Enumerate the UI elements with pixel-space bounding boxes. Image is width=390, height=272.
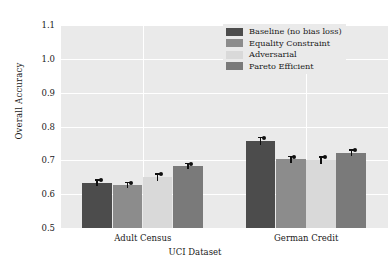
bar (173, 166, 203, 228)
bar (246, 141, 276, 228)
bar (143, 177, 173, 228)
y-axis-tick: 1.1 (25, 21, 55, 30)
error-bar-marker (99, 178, 103, 182)
legend-swatch-icon (226, 39, 243, 47)
legend-item[interactable]: Equality Constraint (226, 39, 342, 48)
y-axis-label: Overall Accuracy (14, 26, 24, 176)
error-bar-marker (129, 181, 133, 185)
legend-swatch-icon (226, 51, 243, 59)
error-bar-marker (159, 172, 163, 176)
gridline-horizontal (61, 93, 388, 94)
legend: Baseline (no bias loss)Equality Constrai… (223, 24, 346, 74)
legend-item[interactable]: Baseline (no bias loss) (226, 27, 342, 36)
x-axis-label: UCI Dataset (0, 247, 390, 257)
bar (276, 159, 306, 228)
x-axis-tick: Adult Census (88, 234, 198, 243)
bar (113, 185, 143, 228)
bar (336, 153, 366, 228)
error-bar-marker (262, 136, 266, 140)
legend-item-label: Pareto Efficient (249, 62, 314, 71)
figure: Overall Accuracy 0.50.60.70.80.91.01.1 A… (0, 0, 390, 272)
bar (306, 160, 336, 228)
legend-item[interactable]: Pareto Efficient (226, 62, 342, 71)
y-axis-tick: 0.8 (25, 123, 55, 132)
bar (82, 183, 112, 228)
legend-swatch-icon (226, 28, 243, 36)
legend-item[interactable]: Adversarial (226, 50, 342, 59)
error-bar-marker (292, 155, 296, 159)
legend-item-label: Baseline (no bias loss) (249, 27, 342, 36)
legend-item-label: Adversarial (249, 50, 297, 59)
error-bar-marker (323, 155, 327, 159)
y-axis-tick: 0.6 (25, 190, 55, 199)
y-axis-tick: 0.7 (25, 156, 55, 165)
y-axis-tick: 0.5 (25, 224, 55, 233)
error-bar-marker (353, 148, 357, 152)
y-axis-tick: 1.0 (25, 55, 55, 64)
x-axis-tick: German Credit (251, 234, 361, 243)
legend-item-label: Equality Constraint (249, 39, 330, 48)
legend-swatch-icon (226, 62, 243, 70)
y-axis-tick: 0.9 (25, 89, 55, 98)
gridline-horizontal (61, 127, 388, 128)
